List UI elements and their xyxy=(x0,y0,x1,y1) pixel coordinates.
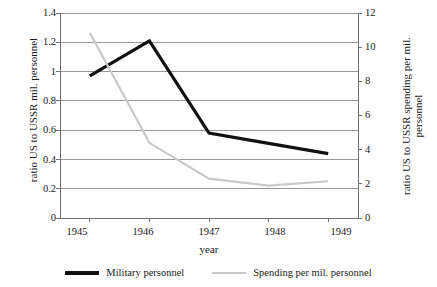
gridlines xyxy=(60,13,358,218)
legend-entry-spending: Spending per mil. personnel xyxy=(212,267,371,279)
data-series xyxy=(90,33,328,186)
line-chart: ratio US to USSR mil. personnel ratio US… xyxy=(0,0,437,287)
legend-entry-military: Military personnel xyxy=(65,267,184,279)
tick-marks xyxy=(56,13,362,222)
legend-label-military: Military personnel xyxy=(106,267,184,279)
legend-swatch-spending-icon xyxy=(212,272,246,274)
legend-swatch-military-icon xyxy=(65,271,99,275)
plot-area xyxy=(0,0,437,287)
axis-lines xyxy=(60,13,358,218)
chart-legend: Military personnel Spending per mil. per… xyxy=(0,262,437,284)
legend-label-spending: Spending per mil. personnel xyxy=(253,267,371,279)
